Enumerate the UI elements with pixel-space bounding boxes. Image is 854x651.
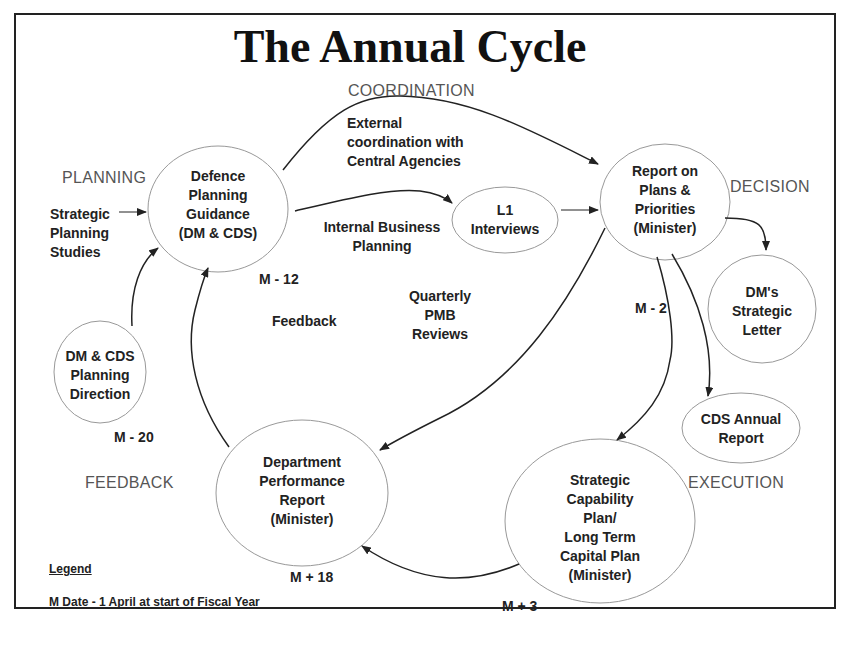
label-m-plus-18: M + 18 [290,568,333,587]
arrow-dpr-to-dpg [191,268,229,447]
node-dm-cds-planning-direction: DM & CDS Planning Direction [55,347,145,404]
label-m-plus-3: M + 3 [502,597,537,616]
arrow-internal-business [295,190,452,211]
page-title: The Annual Cycle [200,22,620,72]
label-feedback: Feedback [272,312,337,331]
arrow-report-to-scp [617,257,672,440]
phase-execution: EXECUTION [688,474,784,492]
label-strategic-planning-studies: Strategic Planning Studies [50,205,110,262]
node-cds-annual-report: CDS Annual Report [686,410,796,448]
node-department-performance-report: Department Performance Report (Minister) [242,453,362,529]
arrow-report-to-letter [725,218,766,250]
arrow-report-to-cds-report [672,254,710,396]
node-report-on-plans: Report on Plans & Priorities (Minister) [605,162,725,238]
node-strategic-capability-plan: Strategic Capability Plan/ Long Term Cap… [545,471,655,585]
arrow-scp-to-dpr [362,546,519,578]
phase-coordination: COORDINATION [348,82,475,100]
node-l1-interviews: L1 Interviews [455,201,555,239]
node-defence-planning-guidance: Defence Planning Guidance (DM & CDS) [158,167,278,243]
legend-text: M Date - 1 April at start of Fiscal Year [49,593,260,612]
phase-feedback: FEEDBACK [85,474,174,492]
phase-decision: DECISION [730,178,810,196]
legend-title: Legend [49,560,92,579]
label-m-minus-12: M - 12 [259,270,299,289]
label-internal-business-planning: Internal Business Planning [312,218,452,256]
label-m-minus-2: M - 2 [635,299,667,318]
label-quarterly-pmb-reviews: Quarterly PMB Reviews [395,287,485,344]
label-external-coordination: External coordination with Central Agenc… [347,114,464,171]
node-dm-strategic-letter: DM's Strategic Letter [712,283,812,340]
arrow-direction-to-dpg [132,248,158,326]
label-m-minus-20: M - 20 [114,428,154,447]
phase-planning: PLANNING [62,169,146,187]
